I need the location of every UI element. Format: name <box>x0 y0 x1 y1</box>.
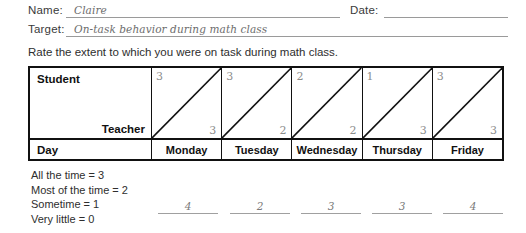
day-label-cell: Day <box>30 140 152 159</box>
student-rating-value: 2 <box>296 70 303 83</box>
legend-item-2: Most of the time = 2 <box>31 183 128 198</box>
day-label: Day <box>30 144 58 156</box>
student-rating-value: 3 <box>226 70 233 83</box>
day-header-friday: Friday <box>433 140 502 159</box>
day-header-thursday: Thursday <box>363 140 433 159</box>
legend-item-3: All the time = 3 <box>31 168 128 183</box>
total-field-thursday[interactable]: 3 <box>372 198 432 214</box>
teacher-rating-value: 3 <box>490 124 497 137</box>
student-label: Student <box>37 73 80 85</box>
total-value: 3 <box>301 200 361 212</box>
instruction-text: Rate the extent to which you were on tas… <box>28 46 338 58</box>
rating-row-labels: Student Teacher <box>30 68 152 138</box>
legend-item-0: Very little = 0 <box>31 212 128 227</box>
name-label: Name: <box>28 4 63 16</box>
target-label: Target: <box>28 23 65 35</box>
legend-item-1: Sometime = 1 <box>31 197 128 212</box>
student-rating-value: 3 <box>156 70 163 83</box>
day-header-tuesday: Tuesday <box>222 140 292 159</box>
teacher-rating-value: 3 <box>209 124 216 137</box>
total-field-tuesday[interactable]: 2 <box>230 198 290 214</box>
name-rule <box>66 17 340 18</box>
total-field-monday[interactable]: 4 <box>158 198 218 214</box>
name-value: Claire <box>66 4 340 17</box>
rating-cell-friday[interactable]: 3 3 <box>433 68 502 138</box>
date-value <box>384 4 508 17</box>
target-input[interactable]: On-task behavior during math class <box>66 23 508 37</box>
total-field-wednesday[interactable]: 3 <box>301 198 361 214</box>
target-rule <box>66 36 508 37</box>
rating-row: Student Teacher 3 3 3 2 <box>30 68 502 138</box>
teacher-rating-value: 2 <box>350 124 357 137</box>
rating-table: Student Teacher 3 3 3 2 <box>28 66 504 161</box>
date-label: Date: <box>350 4 379 16</box>
day-header-wednesday: Wednesday <box>292 140 362 159</box>
teacher-label: Teacher <box>102 123 145 135</box>
total-rule <box>372 213 432 214</box>
teacher-rating-value: 2 <box>279 124 286 137</box>
date-input[interactable] <box>384 4 508 18</box>
rating-scale-legend: All the time = 3 Most of the time = 2 So… <box>31 168 128 226</box>
total-value: 4 <box>443 200 503 212</box>
rating-cell-monday[interactable]: 3 3 <box>152 68 222 138</box>
rating-cell-wednesday[interactable]: 2 2 <box>292 68 362 138</box>
day-header-row: Day Monday Tuesday Wednesday Thursday Fr… <box>30 138 502 159</box>
rating-cell-tuesday[interactable]: 3 2 <box>222 68 292 138</box>
total-value: 3 <box>372 200 432 212</box>
rating-cells: 3 3 3 2 2 2 1 <box>152 68 502 138</box>
total-value: 2 <box>230 200 290 212</box>
student-rating-value: 3 <box>437 70 444 83</box>
total-rule <box>230 213 290 214</box>
total-rule <box>443 213 503 214</box>
student-rating-value: 1 <box>367 70 374 83</box>
day-header-monday: Monday <box>152 140 222 159</box>
date-rule <box>384 17 508 18</box>
teacher-rating-value: 3 <box>420 124 427 137</box>
rating-cell-thursday[interactable]: 1 3 <box>363 68 433 138</box>
total-field-friday[interactable]: 4 <box>443 198 503 214</box>
target-value: On-task behavior during math class <box>66 23 508 36</box>
total-rule <box>301 213 361 214</box>
total-rule <box>158 213 218 214</box>
total-value: 4 <box>158 200 218 212</box>
name-input[interactable]: Claire <box>66 4 340 18</box>
